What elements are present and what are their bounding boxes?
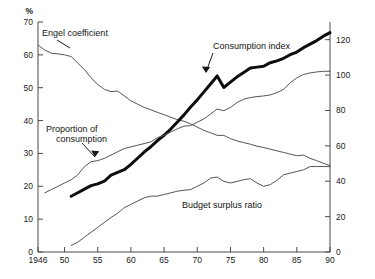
figure-caption-remnant [104,269,344,278]
consumption-index-arrowhead [202,67,210,74]
line-chart: 0 10 20 30 40 50 60 70 % 0 20 40 60 80 1… [0,0,375,279]
series-label-budget-surplus-ratio: Budget surplus ratio [182,200,262,210]
right-tick-label-100: 100 [336,70,350,80]
x-tick-label-70: 70 [193,255,203,265]
x-tick-label-90: 90 [325,255,335,265]
left-tick-label-40: 40 [24,116,34,126]
x-tick-label-80: 80 [259,255,269,265]
right-tick-label-60: 60 [336,141,346,151]
x-tick-label-1946: 1946 [29,255,48,265]
left-tick-label-30: 30 [24,148,34,158]
series-line-engel-coefficient [38,45,330,166]
x-tick-label-85: 85 [292,255,302,265]
left-tick-label-60: 60 [24,50,34,60]
x-tick-label-50: 50 [60,255,70,265]
x-tick-label-55: 55 [93,255,103,265]
series-line-consumption-index [71,33,330,197]
right-tick-label-40: 40 [336,176,346,186]
series-label-proportion-line2: consumption [56,134,107,144]
left-axis-unit-label: % [25,6,33,16]
left-axis-ticks [38,22,43,252]
left-tick-label-20: 20 [24,181,34,191]
right-tick-label-80: 80 [336,105,346,115]
series-label-engel-coefficient: Engel coefficient [42,28,108,38]
chart-figure: 0 10 20 30 40 50 60 70 % 0 20 40 60 80 1… [0,0,375,279]
series-label-consumption-index: Consumption index [213,41,291,51]
proportion-leader-line [82,143,95,157]
left-tick-label-70: 70 [24,17,34,27]
series-label-proportion-line1: Proportion of [46,124,98,134]
x-axis-ticks [38,247,330,252]
right-tick-label-0: 0 [336,247,341,257]
x-tick-label-65: 65 [159,255,169,265]
x-tick-label-75: 75 [226,255,236,265]
left-tick-label-50: 50 [24,83,34,93]
right-tick-label-20: 20 [336,212,346,222]
x-tick-label-60: 60 [126,255,136,265]
right-tick-label-120: 120 [336,35,350,45]
left-tick-label-10: 10 [24,214,34,224]
engel-leader-line [57,40,70,48]
